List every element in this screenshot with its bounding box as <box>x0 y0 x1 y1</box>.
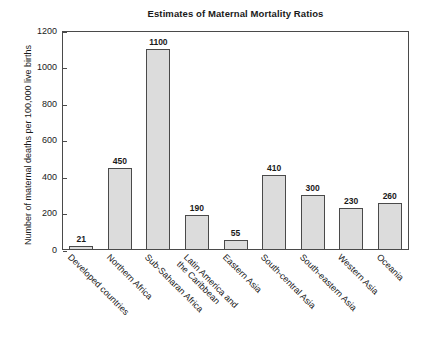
bar <box>378 203 402 250</box>
bar-value-label: 1100 <box>138 38 178 47</box>
bar <box>108 168 132 250</box>
bar-value-label: 450 <box>100 157 140 166</box>
bar-value-label: 260 <box>370 192 410 201</box>
plot-area: 21450110019055410300230260 <box>62 31 409 250</box>
y-axis-tick-label: 1200 <box>5 27 57 36</box>
bar-value-label: 300 <box>293 184 333 193</box>
bar <box>301 195 325 250</box>
y-axis-tick-label: 800 <box>5 100 57 109</box>
bar <box>262 175 286 250</box>
bar-value-label: 230 <box>331 197 371 206</box>
bar <box>185 215 209 250</box>
y-axis-tick-label: 1000 <box>5 63 57 72</box>
chart-figure: Estimates of Maternal Mortality Ratios N… <box>0 0 427 342</box>
bar-value-label: 55 <box>216 229 256 238</box>
bar <box>224 240 248 250</box>
bar <box>339 208 363 250</box>
y-axis-tick-label: 200 <box>5 209 57 218</box>
y-axis-tick-label: 600 <box>5 136 57 145</box>
x-axis-category-label: Oceania <box>375 252 406 283</box>
y-axis-tick-labels: 020040060080010001200 <box>0 31 57 250</box>
bar <box>146 49 170 250</box>
bar-value-label: 190 <box>177 204 217 213</box>
y-axis-tick-label: 0 <box>5 246 57 255</box>
chart-title: Estimates of Maternal Mortality Ratios <box>62 8 409 19</box>
x-axis-category-labels: Developed countriesNorthern AfricaSub-Sa… <box>62 252 409 342</box>
bar-value-label: 21 <box>61 235 101 244</box>
bar-value-label: 410 <box>254 164 294 173</box>
bar <box>69 246 93 250</box>
x-axis-category-label: Eastern Asia <box>220 252 263 295</box>
y-axis-tick-label: 400 <box>5 173 57 182</box>
